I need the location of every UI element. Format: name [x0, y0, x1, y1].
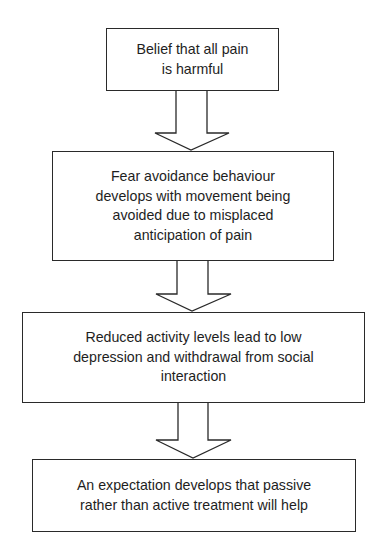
flow-step-2-text: Fear avoidance behaviour develops with m… — [96, 167, 291, 245]
text-line: anticipation of pain — [96, 226, 291, 246]
text-line: Fear avoidance behaviour — [96, 167, 291, 187]
text-line: develops with movement being — [96, 187, 291, 207]
text-line: is harmful — [137, 60, 249, 80]
flow-step-4: An expectation develops that passive rat… — [32, 459, 356, 532]
flow-step-3-text: Reduced activity levels lead to low depr… — [73, 328, 314, 387]
flowchart: Belief that all pain is harmful Fear avo… — [0, 0, 381, 549]
flow-step-4-text: An expectation develops that passive rat… — [77, 476, 311, 515]
down-arrow-icon-3 — [156, 402, 231, 458]
text-line: Reduced activity levels lead to low — [73, 328, 314, 348]
flow-step-1: Belief that all pain is harmful — [106, 28, 279, 91]
text-line: interaction — [73, 367, 314, 387]
text-line: rather than active treatment will help — [77, 496, 311, 516]
down-arrow-icon-1 — [155, 90, 229, 150]
text-line: Belief that all pain — [137, 40, 249, 60]
flow-step-1-text: Belief that all pain is harmful — [137, 40, 249, 79]
flow-step-3: Reduced activity levels lead to low depr… — [22, 312, 365, 403]
text-line: avoided due to misplaced — [96, 206, 291, 226]
down-arrow-icon-2 — [156, 260, 231, 311]
text-line: An expectation develops that passive — [77, 476, 311, 496]
text-line: depression and withdrawal from social — [73, 348, 314, 368]
flow-step-2: Fear avoidance behaviour develops with m… — [52, 151, 334, 261]
